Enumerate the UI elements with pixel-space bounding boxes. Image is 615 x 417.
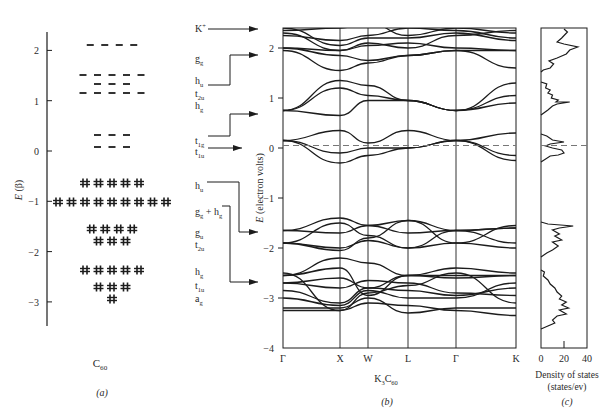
bands <box>283 23 516 316</box>
k-point-label: W <box>363 353 373 364</box>
panel-c-caption: (c) <box>561 396 573 408</box>
orbital-label: t1u <box>195 280 205 293</box>
x-axis-label-units: (states/ev) <box>547 382 586 393</box>
electron-pair-icon <box>121 283 131 292</box>
electron-pair-icon <box>67 198 77 207</box>
electron-pair-icon <box>107 283 117 292</box>
electron-pair-icon <box>121 179 131 188</box>
orbital-labels-column: K+gghut2uhgt1gt1uhugg + hggut2uhgt1uag <box>195 22 258 306</box>
k-point-label: K <box>512 353 520 364</box>
electron-pair-icon <box>94 283 104 292</box>
k-point-label: L <box>405 353 411 364</box>
k-point-label: Γ <box>453 353 459 364</box>
material-label: K3C60 <box>374 373 398 386</box>
arrowhead-icon <box>249 52 258 58</box>
orbital-label: ag <box>195 293 203 306</box>
band-line <box>283 258 516 276</box>
electron-pair-icon <box>107 295 117 304</box>
electron-pair-icon <box>134 198 144 207</box>
electron-pair-icon <box>94 179 104 188</box>
panel-c-density-of-states: 02040Density of states(states/ev)(c) <box>535 28 599 408</box>
y-tick-label: −2 <box>28 247 39 258</box>
electron-pair-icon <box>121 237 131 246</box>
dos-hu-band <box>541 222 573 257</box>
arrow-t1g <box>208 114 258 136</box>
y-tick-label: 1 <box>269 93 274 104</box>
orbital-label: hg <box>195 266 204 279</box>
k-point-label: Γ <box>280 353 286 364</box>
electron-pair-icon <box>80 198 90 207</box>
electron-pair-icon <box>114 225 124 234</box>
molecule-label: C60 <box>93 357 108 372</box>
band-line <box>283 288 516 303</box>
x-axis-label: Density of states <box>535 370 599 380</box>
electron-pair-icon <box>100 225 110 234</box>
y-tick-label: −3 <box>28 297 39 308</box>
electron-pair-icon <box>121 266 131 275</box>
figure: 210−1−2−3E (β)C60(a) K+gghut2uhgt1gt1uhu… <box>0 0 615 417</box>
panel-a-energy-levels: 210−1−2−3E (β)C60(a) <box>13 32 171 399</box>
electron-pair-icon <box>87 225 97 234</box>
band-line <box>283 303 516 316</box>
y-axis-label: E (β) <box>13 180 25 201</box>
band-line <box>283 268 516 296</box>
arrowhead-icon <box>249 229 258 235</box>
arrow-t2u <box>208 55 258 85</box>
electron-pair-icon <box>148 198 158 207</box>
electron-pair-icon <box>107 179 117 188</box>
electron-pair-icon <box>53 198 63 207</box>
y-tick-label: 1 <box>34 96 39 107</box>
electron-pair-icon <box>94 237 104 246</box>
orbital-label: hu <box>195 180 204 193</box>
orbital-label: K+ <box>195 22 206 34</box>
electron-pair-icon <box>94 266 104 275</box>
y-tick-label: −2 <box>263 243 274 254</box>
x-tick-label: 0 <box>539 353 544 364</box>
arrowhead-icon <box>249 26 258 32</box>
band-line <box>283 43 516 51</box>
k-point-label: X <box>336 353 344 364</box>
arrowhead-icon <box>249 111 258 117</box>
orbital-label: hg <box>195 100 204 113</box>
dos-t1g-band <box>541 82 570 115</box>
dos-t1u-band <box>541 134 564 162</box>
electron-pair-icon <box>134 179 144 188</box>
panel-b-caption: (b) <box>381 396 393 408</box>
orbital-label: gg <box>195 53 204 66</box>
electron-pair-icon <box>107 266 117 275</box>
y-tick-label: 0 <box>269 143 274 154</box>
panel-a-caption: (a) <box>96 387 108 399</box>
x-tick-label: 40 <box>582 353 592 364</box>
y-axis-label: E (electron volts) <box>254 153 266 223</box>
electron-pair-icon <box>94 198 104 207</box>
arrowhead-icon <box>233 145 242 151</box>
y-tick-label: 0 <box>34 146 39 157</box>
y-tick-label: −4 <box>263 343 274 354</box>
band-line <box>283 141 516 164</box>
electron-pair-icon <box>161 198 171 207</box>
panel-b-band-structure: 210−1−2−3−4E (electron volts)ΓXWLΓKK3C60… <box>254 23 520 408</box>
electron-pair-icon <box>80 266 90 275</box>
orbital-label: gg + hg <box>195 206 223 219</box>
band-line <box>283 131 516 144</box>
orbital-label: hu <box>195 75 204 88</box>
x-tick-label: 20 <box>559 353 569 364</box>
electron-pair-icon <box>107 237 117 246</box>
y-tick-label: 2 <box>34 45 39 56</box>
electron-pair-icon <box>107 198 117 207</box>
dos-upper-band <box>541 29 578 72</box>
dos-frame <box>541 28 587 348</box>
arrow-gg-hg <box>222 206 258 282</box>
dos-ggh-band <box>541 270 569 329</box>
electron-pair-icon <box>134 266 144 275</box>
electron-pair-icon <box>80 179 90 188</box>
orbital-label: t2u <box>195 239 205 252</box>
y-tick-label: 2 <box>269 43 274 54</box>
y-tick-label: −1 <box>28 196 39 207</box>
y-tick-label: −3 <box>263 293 274 304</box>
band-line <box>283 241 516 249</box>
electron-pair-icon <box>127 225 137 234</box>
arrowhead-icon <box>249 279 258 285</box>
electron-pair-icon <box>121 198 131 207</box>
